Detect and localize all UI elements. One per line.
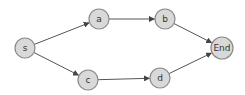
edges-layer <box>34 19 212 80</box>
node-label: c <box>86 75 91 85</box>
edge-c-to-d <box>98 78 150 79</box>
edge-b-to-end <box>174 24 212 43</box>
node-c: c <box>78 70 98 90</box>
edge-s-to-a <box>34 23 89 45</box>
node-label: d <box>157 73 163 83</box>
node-s: s <box>15 38 35 58</box>
edge-s-to-c <box>34 53 79 76</box>
node-end: End <box>211 37 233 59</box>
node-label: End <box>213 43 230 53</box>
node-label: s <box>23 43 28 53</box>
node-d: d <box>150 68 170 88</box>
node-b: b <box>155 9 175 29</box>
node-label: a <box>96 14 102 24</box>
directed-graph-diagram: sabcdEnd <box>0 0 245 95</box>
edge-d-to-end <box>169 53 212 74</box>
nodes-layer: sabcdEnd <box>15 9 233 90</box>
node-a: a <box>89 9 109 29</box>
node-label: b <box>162 14 168 24</box>
